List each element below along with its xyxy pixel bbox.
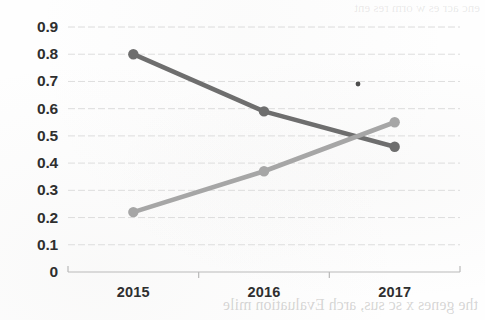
y-axis-tick-label: 0.1 xyxy=(14,237,58,253)
line-chart: enc acr es w orm res ent 0.90.80.70.60.5… xyxy=(0,0,485,320)
gridlines xyxy=(68,27,460,245)
x-axis-tick-label: 2017 xyxy=(350,285,440,300)
y-axis-tick-label: 0 xyxy=(14,264,58,280)
x-axis-tick-label: 2015 xyxy=(88,285,178,300)
annotation-layer xyxy=(356,82,361,87)
data-series-layer xyxy=(128,49,400,217)
y-axis-tick-label: 0.6 xyxy=(14,101,58,117)
y-axis-tick-label: 0.7 xyxy=(14,73,58,89)
plot-area xyxy=(0,0,485,320)
x-axis-tick-label: 2016 xyxy=(219,285,309,300)
y-axis-tick-label: 0.2 xyxy=(14,210,58,226)
y-axis-tick-label: 0.9 xyxy=(14,19,58,35)
y-axis-tick-label: 0.4 xyxy=(14,155,58,171)
y-axis-tick-label: 0.8 xyxy=(14,46,58,62)
y-axis-tick-label: 0.3 xyxy=(14,182,58,198)
axis-lines xyxy=(68,266,460,272)
x-axis-ticks xyxy=(199,272,330,278)
y-axis-tick-label: 0.5 xyxy=(14,128,58,144)
